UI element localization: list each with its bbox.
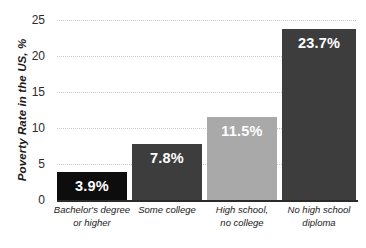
x-label-line-2: no college: [198, 217, 286, 230]
y-tick-label: 10: [0, 122, 45, 134]
bar-value-label: 7.8%: [132, 150, 202, 166]
x-label-high-school-no-college: High school, no college: [198, 204, 286, 229]
plot-area: 3.9% 7.8% 11.5% 23.7%: [57, 20, 356, 200]
bar-value-label: 23.7%: [282, 35, 356, 51]
bar-some-college[interactable]: 7.8%: [132, 144, 202, 200]
bar-value-label: 11.5%: [207, 123, 277, 139]
bar-value-label: 3.9%: [57, 178, 127, 194]
bar-chart: Poverty Rate in the US, % 25 20 15 10 5 …: [0, 0, 366, 248]
x-label-line-2: diploma: [275, 217, 363, 230]
x-label-line-2: or higher: [48, 217, 136, 230]
bar-bachelors-degree-or-higher[interactable]: 3.9%: [57, 172, 127, 200]
y-tick-label: 25: [0, 14, 45, 26]
y-tick-label: 0: [0, 194, 45, 206]
y-tick-label: 5: [0, 158, 45, 170]
y-axis-tick-labels: 25 20 15 10 5 0: [0, 20, 51, 200]
x-label-line-1: No high school: [275, 204, 363, 217]
gridline-25: [57, 20, 356, 21]
bar-no-high-school-diploma[interactable]: 23.7%: [282, 29, 356, 200]
x-label-no-high-school-diploma: No high school diploma: [275, 204, 363, 229]
bar-high-school-no-college[interactable]: 11.5%: [207, 117, 277, 200]
x-axis-category-labels: Bachelor's degree or higher Some college…: [57, 204, 356, 248]
x-axis-baseline: [57, 200, 358, 202]
x-label-line-1: High school,: [198, 204, 286, 217]
y-tick-label: 15: [0, 86, 45, 98]
y-tick-label: 20: [0, 50, 45, 62]
